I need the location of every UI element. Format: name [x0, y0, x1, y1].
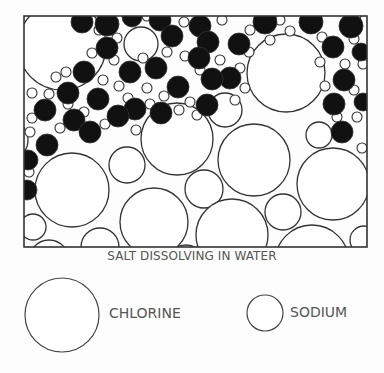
sodium-ion: [98, 75, 108, 85]
chlorine-ion: [322, 36, 344, 58]
chlorine-ion: [188, 47, 210, 69]
chlorine-ion: [253, 10, 277, 34]
sodium-ion: [138, 53, 148, 63]
sodium-ion: [87, 48, 97, 58]
sodium-ion: [114, 81, 124, 91]
chlorine-ion: [167, 76, 189, 98]
sodium-ion: [25, 127, 35, 137]
water-molecule: [306, 122, 332, 148]
water-molecule: [265, 194, 301, 230]
chlorine-ion: [299, 10, 323, 34]
water-molecule: [218, 124, 290, 196]
chlorine-ion: [18, 150, 38, 170]
water-molecule: [247, 34, 325, 112]
sodium-ion: [357, 143, 367, 153]
chlorine-ion: [71, 11, 93, 33]
chlorine-ion: [79, 121, 101, 143]
chlorine-ion: [161, 25, 183, 47]
chlorine-ion: [196, 94, 218, 116]
chlorine-ion: [96, 37, 118, 59]
chlorine-ion: [331, 121, 353, 143]
chlorine-ion: [73, 61, 95, 83]
legend-label-chlorine: CHLORINE: [109, 305, 181, 321]
chlorine-ion: [150, 102, 172, 124]
sodium-ion: [185, 97, 195, 107]
sodium-ion: [340, 59, 350, 69]
chlorine-ion: [122, 7, 142, 27]
chlorine-ion: [119, 61, 141, 83]
chlorine-ion: [87, 88, 109, 110]
sodium-ion: [230, 95, 240, 105]
sodium-legend-icon: [247, 295, 283, 331]
sodium-ion: [179, 17, 189, 27]
sodium-ion: [131, 125, 141, 135]
sodium-ion: [51, 72, 61, 82]
chlorine-ion: [323, 93, 345, 115]
chlorine-ion: [107, 105, 129, 127]
water-molecule: [35, 153, 109, 227]
sodium-ion: [215, 55, 225, 65]
sodium-ion: [142, 83, 152, 93]
chlorine-ion: [145, 57, 167, 79]
sodium-ion: [320, 81, 330, 91]
chlorine-ion: [228, 33, 250, 55]
chlorine-ion: [201, 68, 223, 90]
chlorine-ion: [34, 99, 56, 121]
chlorine-ion: [339, 14, 363, 38]
chlorine-legend-icon: [25, 278, 99, 352]
water-molecule: [109, 147, 145, 183]
sodium-ion: [352, 112, 362, 122]
chlorine-ion: [57, 82, 79, 104]
water-molecule: [297, 148, 369, 220]
sodium-ion: [240, 83, 250, 93]
sodium-ion: [159, 91, 169, 101]
sodium-ion: [174, 105, 184, 115]
water-molecule: [120, 188, 188, 256]
sodium-ion: [162, 47, 172, 57]
diagram-caption: SALT DISSOLVING IN WATER: [0, 249, 384, 263]
sodium-ion: [265, 35, 275, 45]
chlorine-ion: [333, 69, 355, 91]
sodium-ion: [27, 88, 37, 98]
sodium-ion: [44, 89, 54, 99]
chlorine-ion: [36, 134, 58, 156]
sodium-ion: [285, 26, 295, 36]
legend-label-sodium: SODIUM: [290, 304, 347, 320]
sodium-ion: [61, 67, 71, 77]
chlorine-ion: [17, 180, 37, 200]
sodium-ion: [315, 57, 325, 67]
sodium-ion: [55, 123, 65, 133]
chlorine-ion: [354, 93, 372, 111]
